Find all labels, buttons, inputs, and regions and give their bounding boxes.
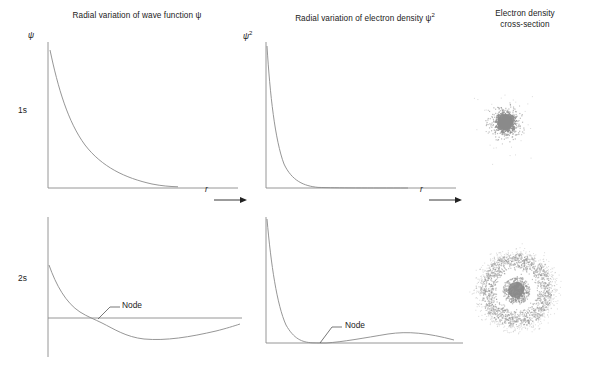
node-leader-line-2s-psi [98, 307, 110, 319]
node-label-2s-psi: Node [122, 300, 142, 310]
x-axis-arrow-1s-psi2-svg [429, 196, 463, 204]
column-title-wave-function-text: Radial variation of wave function ψ [73, 11, 202, 20]
x-axis-label-r-1s-psi-text: r [205, 184, 208, 194]
y-axis-label-psi-1s-text: ψ [28, 30, 34, 40]
y-axis-label-psi2-1s: ψ2 [243, 30, 252, 41]
column-title-cross-section-line1: Electron density [466, 8, 584, 19]
column-title-electron-density: Radial variation of electron density ψ2 [250, 10, 480, 24]
column-title-wave-function: Radial variation of wave function ψ [32, 10, 242, 21]
plot-1s-psi [40, 40, 240, 192]
curve-1s-psi2 [267, 46, 408, 188]
node-label-2s-psi2-text: Node [345, 320, 365, 330]
plot-1s-psi2 [258, 40, 458, 192]
curve-2s-psi [49, 265, 240, 340]
column-title-cross-section-line2: cross-section [466, 19, 584, 30]
plot-2s-psi [40, 215, 250, 365]
plot-1s-psi-svg [40, 40, 240, 192]
row-label-1s-text: 1s [18, 105, 27, 115]
row-label-1s: 1s [18, 105, 27, 115]
plot-2s-psi2-svg [258, 215, 468, 365]
x-axis-label-r-1s-psi2-text: r [420, 184, 423, 194]
plot-1s-psi2-svg [258, 40, 458, 192]
plot-2s-psi-svg [40, 215, 250, 365]
x-axis-label-r-1s-psi2: r [420, 184, 423, 194]
column-title-exponent: 2 [431, 12, 434, 18]
electron-cloud-1s-svg [455, 72, 555, 172]
column-title-cross-section: Electron density cross-section [466, 8, 584, 30]
y-axis-label-psi2-1s-exponent: 2 [249, 30, 252, 36]
bottom-clipped-text-strip [0, 366, 594, 376]
curve-1s-psi [50, 50, 178, 187]
electron-cloud-1s [455, 72, 555, 172]
row-label-2s-text: 2s [18, 273, 27, 283]
plot-2s-psi2 [258, 215, 468, 365]
x-axis-arrow-1s-psi2 [429, 190, 463, 208]
node-label-2s-psi2: Node [345, 320, 365, 330]
column-title-electron-density-text: Radial variation of electron density ψ [295, 14, 431, 23]
x-axis-label-r-1s-psi: r [205, 184, 208, 194]
node-label-2s-psi-text: Node [122, 300, 142, 310]
electron-cloud-2s [456, 230, 576, 350]
row-label-2s: 2s [18, 273, 27, 283]
x-axis-arrow-1s-psi-svg [214, 196, 248, 204]
radial-wavefunction-figure: Radial variation of wave function ψ Radi… [0, 0, 594, 376]
electron-cloud-2s-svg [456, 230, 576, 350]
node-leader-line-2s-psi2 [320, 327, 332, 343]
x-axis-arrow-1s-psi [214, 190, 248, 208]
y-axis-label-psi-1s: ψ [28, 30, 34, 40]
